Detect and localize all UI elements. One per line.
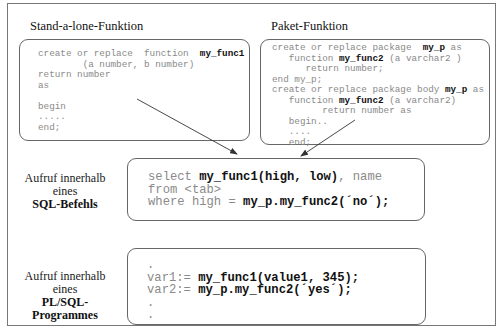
arrow-package-to-sql bbox=[301, 120, 355, 156]
arrows bbox=[0, 0, 504, 329]
arrow-standalone-to-sql bbox=[137, 99, 237, 154]
